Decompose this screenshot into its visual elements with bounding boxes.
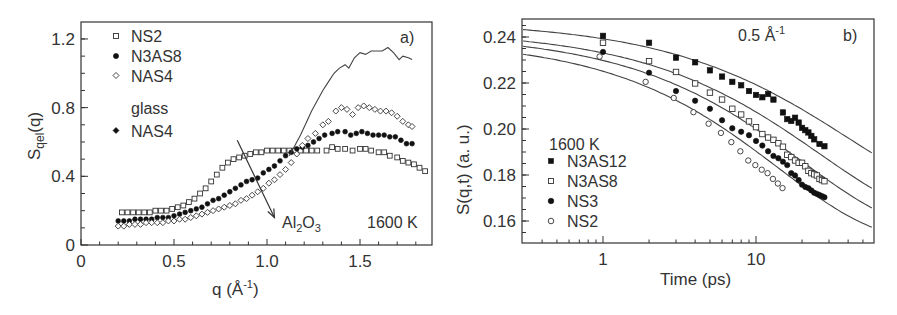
legend-open-diamond-icon [113, 73, 119, 79]
panel-a-ylabel: Sqel(q) [25, 112, 47, 160]
data-point [691, 110, 696, 115]
data-point [796, 177, 801, 182]
data-point [283, 153, 288, 158]
data-point [266, 180, 272, 186]
data-point [283, 166, 289, 172]
data-point [317, 136, 322, 141]
data-point [673, 55, 678, 60]
data-point [278, 158, 283, 163]
data-point [227, 203, 233, 209]
data-point [231, 157, 236, 162]
data-point [671, 95, 676, 100]
data-point [248, 152, 253, 157]
x-tick-label: 0 [76, 252, 85, 271]
data-point [389, 110, 395, 116]
data-point [366, 105, 372, 111]
data-point [147, 210, 152, 215]
data-point [335, 146, 340, 151]
data-point [272, 164, 277, 169]
panel-a-chart: 00.51.01.500.40.81.2 Sqel(q) q (Å-1) a) … [25, 22, 432, 299]
data-point [400, 158, 405, 163]
data-point [707, 68, 712, 73]
data-point [131, 210, 136, 215]
data-point [404, 141, 409, 146]
data-point [153, 208, 158, 213]
data-point [259, 150, 264, 155]
data-point [270, 148, 275, 153]
data-point [363, 146, 368, 151]
x-tick-label: 1.0 [255, 252, 279, 271]
data-point [355, 105, 361, 111]
data-point [325, 118, 331, 124]
data-point [406, 160, 411, 165]
y-tick-label: 1.2 [51, 30, 75, 49]
data-point [730, 106, 735, 111]
data-point [753, 138, 758, 143]
data-point [216, 206, 222, 212]
data-point [646, 70, 651, 75]
data-point [159, 208, 164, 213]
data-point [311, 140, 316, 145]
legend-a-glass: glass [131, 100, 168, 117]
data-point [692, 81, 697, 86]
data-point [765, 170, 770, 175]
data-point [376, 133, 381, 138]
data-point [194, 207, 199, 212]
data-point [382, 150, 387, 155]
data-point [239, 183, 244, 188]
data-point [646, 40, 651, 45]
data-point [718, 130, 723, 135]
legend-filled-circle-icon [548, 198, 554, 204]
data-point [181, 203, 186, 208]
legend-b-n3as12: N3AS12 [567, 153, 627, 170]
data-point [365, 131, 370, 136]
data-point [344, 106, 350, 112]
data-point [237, 155, 242, 160]
data-point [746, 119, 751, 124]
data-point [255, 189, 261, 195]
data-point [771, 97, 776, 102]
data-point [597, 54, 602, 59]
data-point [719, 97, 724, 102]
data-point [771, 153, 776, 158]
data-point [775, 181, 780, 186]
panel-a-xlabel: q (Å-1) [212, 278, 259, 299]
legend-filled-circle-icon [113, 53, 118, 58]
data-point [369, 148, 374, 153]
data-point [204, 209, 210, 215]
panel-b-ylabel: S(q,t) (a. u.) [454, 124, 473, 215]
y-tick-label: 0.18 [483, 166, 516, 185]
data-point [305, 136, 311, 142]
data-point [335, 129, 340, 134]
data-point [343, 146, 348, 151]
data-point [760, 143, 765, 148]
data-point [738, 83, 743, 88]
data-point [320, 122, 326, 128]
data-point [383, 108, 389, 114]
legend-filled-square-icon [549, 159, 554, 164]
data-point [288, 160, 294, 166]
panel-b-xlabel: Time (ps) [660, 270, 731, 289]
data-point [395, 155, 400, 160]
data-point [600, 40, 605, 45]
data-point [250, 177, 255, 182]
data-point [222, 193, 227, 198]
panel-a-legend: NS2 N3AS8 NAS4 glass NAS4 [113, 28, 182, 140]
data-point [746, 133, 751, 138]
data-point [707, 106, 712, 111]
panel-b-label: b) [843, 27, 857, 44]
data-point [410, 141, 415, 146]
data-point [244, 179, 249, 184]
data-point [209, 179, 214, 184]
data-point [306, 143, 311, 148]
legend-a-n3as8: N3AS8 [131, 48, 182, 65]
data-point [266, 167, 271, 172]
data-point [785, 162, 790, 167]
data-point [770, 176, 775, 181]
panel-b-legend: 1600 K N3AS12 N3AS8 NS3 NS2 [548, 136, 626, 230]
data-point [692, 60, 697, 65]
data-point [214, 172, 219, 177]
data-point [249, 192, 255, 198]
data-point [400, 118, 406, 124]
data-point [780, 144, 785, 149]
